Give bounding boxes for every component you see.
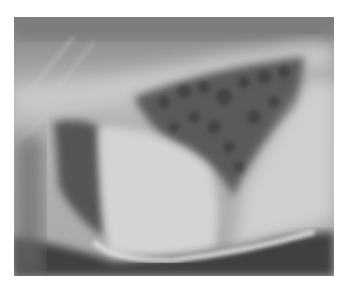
xray-rendering	[14, 17, 334, 276]
xray-image	[14, 17, 334, 276]
